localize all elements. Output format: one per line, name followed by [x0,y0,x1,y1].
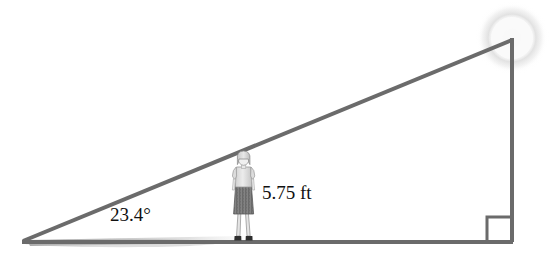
triangle-sides [22,38,513,242]
geometry-figure: 23.4° 5.75 ft [0,0,549,259]
angle-of-elevation-label: 23.4° [110,205,151,224]
triangle-hypotenuse-line [23,40,512,241]
person-height-label: 5.75 ft [262,183,312,202]
triangle-diagram [0,0,549,259]
right-angle-marker-icon [487,217,511,241]
person-icon [232,151,254,241]
